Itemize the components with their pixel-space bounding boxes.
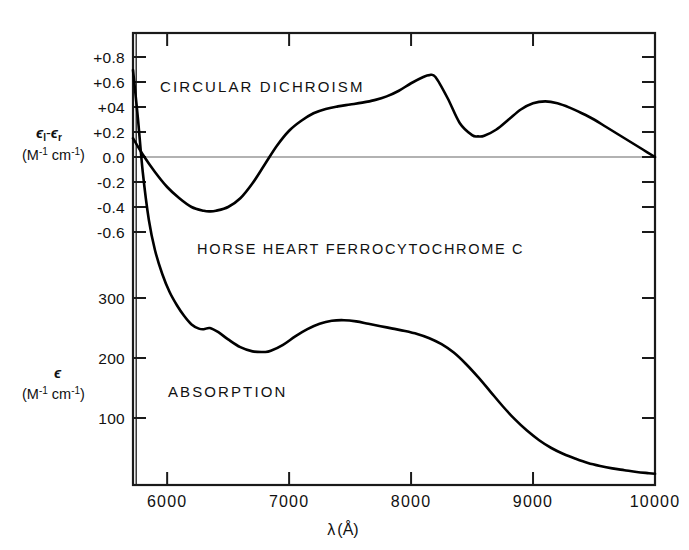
- lambda-symbol: λ: [327, 521, 335, 538]
- svg-text:(M-1 cm-1): (M-1 cm-1): [22, 146, 85, 163]
- cd-axis-title: ϵl-ϵr (M-1 cm-1): [22, 124, 85, 163]
- figure-title: HORSE HEART FERROCYTOCHROME C: [197, 241, 524, 257]
- cd-y-tick-label: +04: [98, 99, 125, 116]
- cd-y-tick-label: -0.4: [97, 199, 125, 216]
- cd-y-tick-label: 0.0: [103, 149, 126, 166]
- svg-text:ϵl-ϵr: ϵl-ϵr: [36, 124, 62, 143]
- abs-units-close: ): [80, 386, 85, 402]
- cd-y-tick-label: -0.2: [97, 174, 125, 191]
- absorption-label: ABSORPTION: [168, 383, 287, 400]
- abs-y-tick-labels: 300200100: [98, 290, 125, 427]
- abs-epsilon-symbol: ϵ: [54, 364, 62, 381]
- cd-units-cm: cm: [48, 147, 71, 163]
- x-tick-label: 10000: [630, 493, 681, 510]
- abs-y-tick-label: 100: [98, 410, 125, 427]
- cd-y-tick-labels: +0.8+0.6+04+0.20.0-0.2-0.4-0.6: [93, 49, 125, 241]
- plot-canvas: +0.8+0.6+04+0.20.0-0.2-0.4-0.6 300200100…: [0, 0, 689, 550]
- x-tick-label: 8000: [391, 493, 431, 510]
- plot-frame: [133, 33, 655, 485]
- cd-units-open: (M: [22, 147, 39, 163]
- abs-units-cm: cm: [48, 386, 71, 402]
- cd-epsilon-subscript-r: r: [58, 132, 62, 143]
- spectroscopy-figure: +0.8+0.6+04+0.20.0-0.2-0.4-0.6 300200100…: [0, 0, 689, 550]
- cd-units-close: ): [80, 147, 85, 163]
- abs-y-tick-label: 300: [98, 290, 125, 307]
- x-axis-ticks-top: [167, 33, 533, 46]
- x-axis-title: λ(Å): [327, 520, 358, 538]
- cd-y-tick-label: +0.6: [93, 74, 125, 91]
- abs-y-tick-label: 200: [98, 350, 125, 367]
- abs-units-open: (M: [22, 386, 39, 402]
- x-tick-label: 6000: [147, 493, 187, 510]
- y-axis-ticks-left: [133, 57, 146, 418]
- cd-y-tick-label: -0.6: [97, 224, 125, 241]
- x-tick-label: 7000: [269, 493, 309, 510]
- absorption-curve: [133, 70, 655, 474]
- x-axis-ticks-bottom: [167, 472, 533, 485]
- x-tick-label: 9000: [513, 493, 553, 510]
- svg-text:(M-1 cm-1): (M-1 cm-1): [22, 385, 85, 402]
- circular-dichroism-curve: [133, 75, 655, 212]
- abs-axis-title: ϵ (M-1 cm-1): [22, 364, 85, 402]
- angstrom-unit: (Å): [337, 520, 358, 538]
- axis-frame: [133, 33, 655, 485]
- cd-y-tick-label: +0.8: [93, 49, 125, 66]
- svg-text:ϵ: ϵ: [54, 364, 62, 381]
- x-tick-labels: 600070008000900010000: [147, 493, 680, 510]
- y-axis-ticks-right: [642, 57, 655, 418]
- circular-dichroism-label: CIRCULAR DICHROISM: [160, 78, 364, 95]
- cd-y-tick-label: +0.2: [93, 124, 125, 141]
